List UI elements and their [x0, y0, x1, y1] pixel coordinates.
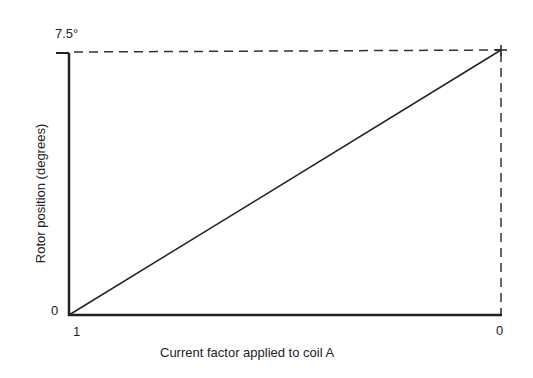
y-tick-top-label: 7.5°: [55, 26, 78, 41]
top-dashed-guide: [74, 50, 501, 52]
x-tick-right-label: 0: [496, 323, 503, 338]
x-axis-label: Current factor applied to coil A: [160, 345, 334, 360]
rotor-position-line: [69, 50, 501, 315]
diagram-canvas: [0, 0, 533, 378]
x-tick-left-label: 1: [73, 324, 80, 339]
y-axis-label: Rotor position (degrees): [33, 114, 48, 274]
y-tick-bottom-label: 0: [51, 303, 58, 318]
